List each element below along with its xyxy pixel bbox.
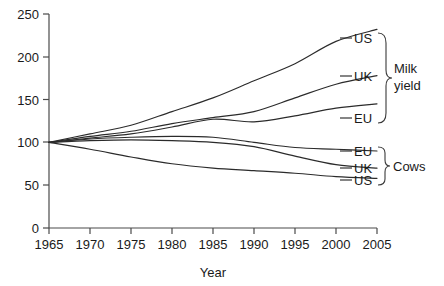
group-label-milk-yield-line1: Milk (394, 61, 418, 76)
series-line-cows-eu (49, 136, 377, 151)
x-axis-labels: 1965 1970 1975 1980 1985 1990 1995 2000 … (35, 237, 392, 252)
group-label-milk-yield-line2: yield (394, 78, 421, 93)
y-tick-label-0: 0 (32, 221, 39, 236)
y-tick-label-250: 250 (17, 7, 39, 22)
series-label-milk-uk: UK (354, 69, 372, 84)
x-tick-label-1965: 1965 (35, 237, 64, 252)
y-axis-labels: 250 200 150 100 50 0 (17, 7, 39, 236)
series-label-cows-eu: EU (354, 144, 372, 159)
x-tick-label-1985: 1985 (199, 237, 228, 252)
y-axis-ticks (43, 14, 49, 228)
x-axis-title: Year (200, 265, 227, 280)
chart-container: 250 200 150 100 50 0 1965 1970 1975 1980… (0, 0, 444, 286)
y-tick-label-50: 50 (25, 178, 39, 193)
x-tick-label-2005: 2005 (363, 237, 392, 252)
x-tick-label-2000: 2000 (322, 237, 351, 252)
series-line-milk-yield-us (49, 29, 377, 142)
y-tick-label-100: 100 (17, 135, 39, 150)
brace-milk-yield (378, 33, 392, 123)
label-leaders (340, 38, 352, 180)
x-tick-label-1970: 1970 (76, 237, 105, 252)
brace-cows (378, 147, 390, 185)
x-tick-label-1990: 1990 (240, 237, 269, 252)
y-tick-label-200: 200 (17, 50, 39, 65)
x-tick-label-1995: 1995 (281, 237, 310, 252)
line-chart: 250 200 150 100 50 0 1965 1970 1975 1980… (0, 0, 444, 286)
group-label-cows: Cows (393, 159, 426, 174)
series-line-milk-yield-eu (49, 104, 377, 143)
series-label-milk-eu: EU (354, 111, 372, 126)
series-layer (49, 29, 377, 178)
series-line-cows-us (49, 142, 377, 178)
series-label-milk-us: US (354, 31, 372, 46)
series-inline-labels: US UK EU EU UK US (354, 31, 372, 188)
series-line-cows-uk (49, 140, 377, 168)
x-tick-label-1980: 1980 (158, 237, 187, 252)
x-axis-ticks (49, 228, 377, 234)
y-tick-label-150: 150 (17, 93, 39, 108)
x-tick-label-1975: 1975 (117, 237, 146, 252)
series-label-cows-us: US (354, 173, 372, 188)
